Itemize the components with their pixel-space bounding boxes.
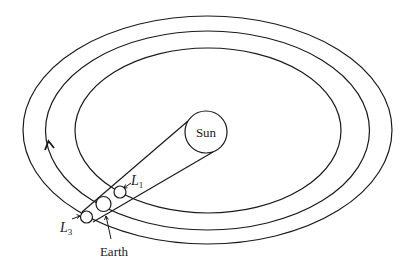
sun-label: Sun [196,125,217,140]
earth [96,197,111,212]
l3-label: L3 [59,220,73,237]
earth-label: Earth [100,244,129,259]
l3-subscript: 3 [68,227,73,237]
l3-point [81,211,93,223]
orbit-diagram: Sun L1 L3 Earth [0,0,410,271]
l1-subscript: 1 [139,180,144,190]
l1-label: L1 [130,173,143,190]
